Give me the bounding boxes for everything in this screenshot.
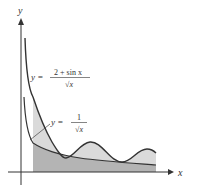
lower-label-lhs: y = bbox=[50, 117, 63, 127]
y-axis-arrow-icon bbox=[18, 18, 24, 25]
upper-label-lhs: y = bbox=[30, 72, 43, 82]
upper-label-denominator: √x bbox=[65, 80, 73, 89]
y-axis-label: y bbox=[17, 5, 23, 16]
upper-curve-label: y = 2 + sin x √x bbox=[30, 68, 90, 89]
x-axis-arrow-icon bbox=[168, 169, 174, 175]
x-axis-label: x bbox=[177, 167, 183, 178]
lower-label-numerator: 1 bbox=[77, 113, 81, 122]
lower-curve-label: y = 1 √x bbox=[50, 113, 87, 134]
lower-label-denominator: √x bbox=[75, 125, 83, 134]
comparison-diagram: x y y = 2 + sin x √x y = 1 √x bbox=[0, 0, 197, 188]
upper-label-numerator: 2 + sin x bbox=[54, 68, 82, 77]
